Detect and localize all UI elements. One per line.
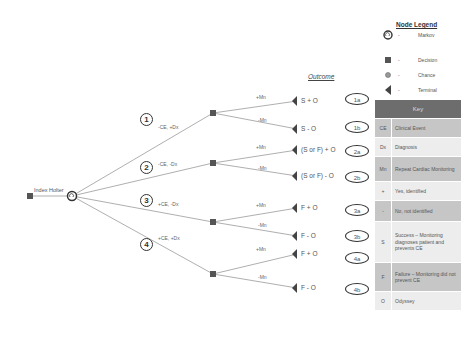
- key-row: -No, not identified: [375, 200, 461, 221]
- branch-label-2: -CE, -Dx: [158, 161, 177, 167]
- key-row: MnRepeat Cardiac Monitoring: [375, 156, 461, 181]
- outcome-id-3b: 3b: [345, 230, 369, 242]
- outcome-label: S - O: [301, 125, 316, 132]
- outcome-id-4b: 4b: [345, 283, 369, 295]
- branch-number-4: 4: [140, 238, 153, 251]
- branch-label-4: +CE, +Dx: [158, 235, 180, 241]
- chance-icon: [386, 73, 391, 78]
- edge-label: -Mn: [258, 222, 267, 228]
- key-table: Key CEClinical Event DxDiagnosis MnRepea…: [375, 100, 461, 310]
- branch-number-3: 3: [140, 194, 153, 207]
- branch-label-1: -CE, +Dx: [158, 124, 178, 130]
- outcome-label: F + O: [301, 250, 317, 257]
- outcome-label: (S or F) + O: [301, 146, 336, 153]
- edge-label: -Mn: [258, 165, 267, 171]
- branch-label-3: +CE, -Dx: [158, 201, 178, 207]
- outcome-label: (S or F) - O: [301, 172, 334, 179]
- key-row: DxDiagnosis: [375, 137, 461, 156]
- key-row: SSuccess – Monitoring diagnoses patient …: [375, 221, 461, 262]
- legend-title: Node Legend: [396, 21, 437, 28]
- root-decision-node: [27, 193, 33, 199]
- decision-icon: [385, 57, 391, 63]
- markov-node: [68, 192, 77, 201]
- decision-node-3: [210, 219, 216, 225]
- edge-label: +Mn: [256, 144, 266, 150]
- edge-label: +Mn: [256, 94, 266, 100]
- edge-label: -Mn: [258, 274, 267, 280]
- outcome-id-2b: 2b: [345, 171, 369, 183]
- decision-node-1: [210, 110, 216, 116]
- root-label: Index Holter: [34, 187, 64, 193]
- outcome-id-1a: 1a: [345, 93, 369, 105]
- outcome-label: S + O: [301, 97, 318, 104]
- key-row: FFailure – Monitoring did not prevent CE: [375, 262, 461, 291]
- branch-number-2: 2: [140, 161, 153, 174]
- key-header: Key: [375, 100, 461, 118]
- branch-number-1: 1: [140, 113, 153, 126]
- outcome-id-2a: 2a: [345, 145, 369, 157]
- markov-icon: [384, 31, 392, 39]
- edge-label: -Mn: [258, 117, 267, 123]
- outcome-id-4a: 4a: [345, 252, 369, 264]
- outcome-id-1b: 1b: [345, 121, 369, 133]
- terminal-icon: [385, 85, 391, 95]
- outcome-label: F - O: [301, 284, 316, 291]
- key-row: CEClinical Event: [375, 118, 461, 137]
- key-row: OOdyssey: [375, 291, 461, 310]
- edge-label: +Mn: [256, 202, 266, 208]
- outcome-header: Outcome: [308, 73, 334, 80]
- outcome-label: F - O: [301, 232, 316, 239]
- decision-node-2: [210, 160, 216, 166]
- outcome-label: F + O: [301, 204, 317, 211]
- decision-node-4: [210, 271, 216, 277]
- edge-label: +Mn: [256, 246, 266, 252]
- outcome-id-3a: 3a: [345, 204, 369, 216]
- key-row: +Yes, identified: [375, 181, 461, 200]
